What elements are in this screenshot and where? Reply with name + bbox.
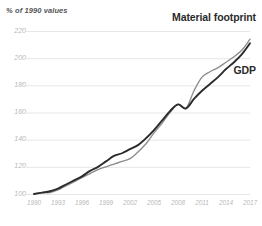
gridlines-group xyxy=(26,32,250,195)
x-tick-label: 2008 xyxy=(165,199,191,206)
x-tick-label: 2002 xyxy=(117,199,143,206)
y-tick-label: 100 xyxy=(4,190,26,197)
chart-plot-area xyxy=(0,0,262,226)
x-tick-label: 2011 xyxy=(189,199,215,206)
y-axis-title: % of 1990 values xyxy=(6,6,68,15)
y-tick-label: 160 xyxy=(4,108,26,115)
x-tick-label: 1993 xyxy=(45,199,71,206)
chart-container: % of 1990 values 100120140160180200220 1… xyxy=(0,0,262,226)
y-tick-label: 120 xyxy=(4,162,26,169)
x-tick-label: 2005 xyxy=(141,199,167,206)
x-tick-label: 1990 xyxy=(21,199,47,206)
x-tick-label: 1999 xyxy=(93,199,119,206)
series-line-material-footprint xyxy=(34,39,250,194)
x-tick-label: 2017 xyxy=(237,199,262,206)
y-tick-label: 220 xyxy=(4,27,26,34)
y-tick-label: 200 xyxy=(4,54,26,61)
series-lines-group xyxy=(34,39,250,194)
series-label-gdp: GDP xyxy=(234,65,256,77)
y-tick-label: 180 xyxy=(4,81,26,88)
series-line-gdp xyxy=(34,43,250,194)
series-label-material-footprint: Material footprint xyxy=(172,12,256,24)
x-tick-label: 2014 xyxy=(213,199,239,206)
x-tick-label: 1996 xyxy=(69,199,95,206)
y-tick-label: 140 xyxy=(4,135,26,142)
